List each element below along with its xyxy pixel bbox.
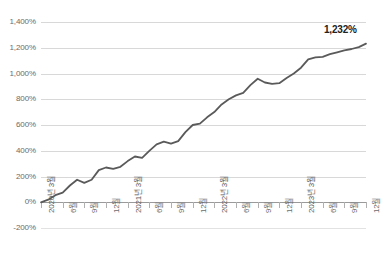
end-value-label: 1,232% — [324, 24, 357, 35]
